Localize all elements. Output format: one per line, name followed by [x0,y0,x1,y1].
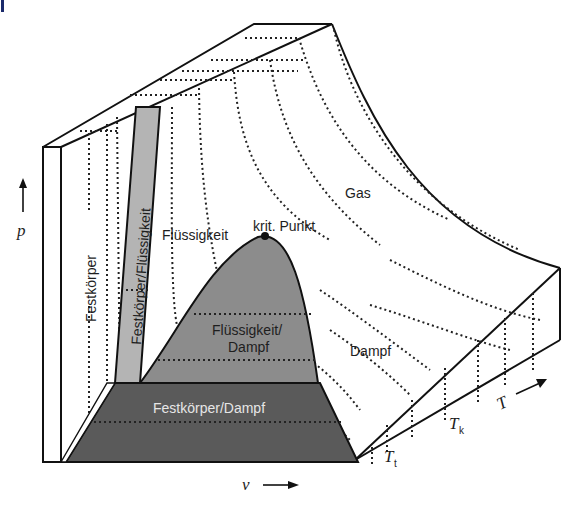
temperature-axis: T [494,379,547,414]
arrow-up-icon [19,178,27,188]
label-solid-vapor: Festkörper/Dampf [153,400,265,416]
label-critical-temperature: T k [449,414,465,436]
pressure-axis: p [16,178,27,240]
label-v: v [242,475,250,494]
pvt-surface-diagram: Festkörper Festkörper/Flüssigkeit Flüssi… [0,0,581,514]
volume-axis: v [242,475,299,494]
label-gas: Gas [345,185,371,201]
label-solid: Festkörper [83,255,99,322]
label-critical-point: krit. Punkt [253,218,315,234]
label-triple-temperature: T t [384,447,397,469]
label-vapor: Dampf [350,343,391,359]
label-liquid-vapor-2: Dampf [228,339,269,355]
corner-mark [1,0,4,12]
label-liquid-vapor-1: Flüssigkeit/ [212,322,282,338]
svg-text:k: k [459,425,465,436]
label-liquid: Flüssigkeit [162,227,228,243]
arrow-right-icon [288,481,299,489]
label-T: T [494,392,512,414]
label-p: p [16,221,26,240]
svg-text:t: t [394,458,397,469]
